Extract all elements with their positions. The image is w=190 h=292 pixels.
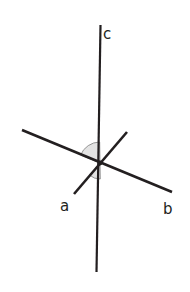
label-b: b [163,200,173,218]
intersection-vertex [98,161,103,166]
geometry-figure: c a b [0,0,190,292]
label-c: c [103,25,111,43]
geometry-canvas: c a b [0,0,190,292]
label-a: a [60,197,69,215]
